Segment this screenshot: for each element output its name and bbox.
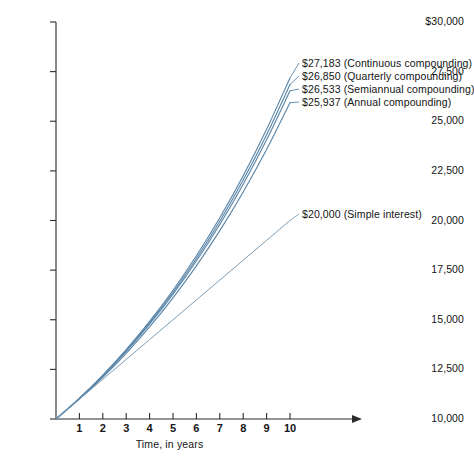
x-axis-tick-label: 3 bbox=[114, 422, 138, 434]
y-axis-tick-label: $30,000 bbox=[418, 15, 464, 27]
series-annotation: $26,533 (Semiannual compounding) bbox=[302, 83, 474, 95]
y-axis-tick-label: 15,000 bbox=[418, 313, 464, 325]
series-line bbox=[56, 91, 290, 419]
series-line bbox=[56, 85, 290, 419]
series-line bbox=[56, 78, 290, 419]
x-axis-tick-label: 2 bbox=[91, 422, 115, 434]
x-axis-tick-label: 1 bbox=[67, 422, 91, 434]
series-annotation: $26,850 (Quarterly compounding) bbox=[302, 70, 462, 82]
x-axis-tick-label: 6 bbox=[184, 422, 208, 434]
annotation-leader bbox=[290, 214, 299, 221]
x-axis-tick-label: 10 bbox=[278, 422, 302, 434]
y-axis-ticks bbox=[50, 22, 56, 419]
x-axis-tick-label: 7 bbox=[208, 422, 232, 434]
annotation-leader bbox=[290, 89, 299, 91]
y-axis-tick-label: 22,500 bbox=[418, 164, 464, 176]
y-axis-tick-label: 12,500 bbox=[418, 362, 464, 374]
y-axis-tick-label: 10,000 bbox=[418, 412, 464, 424]
annotation-leader bbox=[290, 102, 299, 103]
series-line bbox=[56, 103, 290, 419]
y-axis-tick-label: 25,000 bbox=[418, 114, 464, 126]
annotation-leader bbox=[290, 76, 299, 85]
x-axis-tick-label: 9 bbox=[255, 422, 279, 434]
annotation-leader bbox=[290, 63, 299, 78]
annotation-leader-lines bbox=[290, 63, 299, 221]
series-annotation: $20,000 (Simple interest) bbox=[302, 208, 422, 220]
series-line bbox=[56, 221, 290, 420]
series-annotation: $25,937 (Annual compounding) bbox=[302, 96, 451, 108]
series-curves bbox=[56, 78, 290, 419]
y-axis-tick-label: 20,000 bbox=[418, 214, 464, 226]
series-annotation: $27,183 (Continuous compounding) bbox=[302, 57, 472, 69]
x-axis-title: Time, in years bbox=[0, 438, 464, 450]
x-axis-ticks bbox=[79, 413, 290, 419]
x-axis-tick-label: 4 bbox=[138, 422, 162, 434]
x-axis-tick-label: 8 bbox=[231, 422, 255, 434]
x-axis-tick-label: 5 bbox=[161, 422, 185, 434]
y-axis-tick-label: 17,500 bbox=[418, 263, 464, 275]
